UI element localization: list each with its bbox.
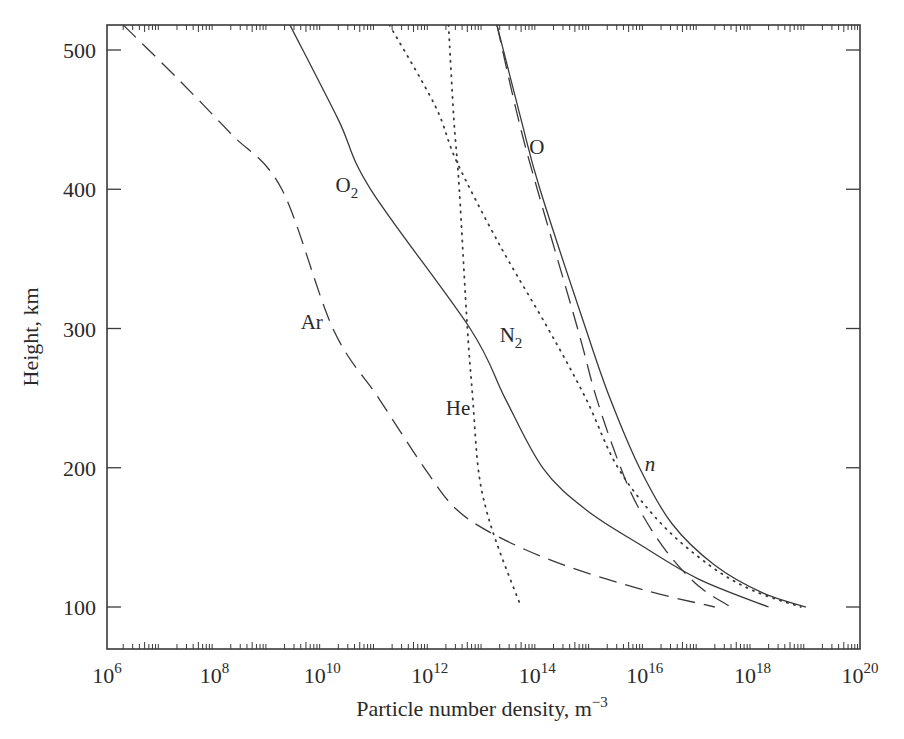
curve-labels: ArO2HeN2On <box>301 135 656 475</box>
curve-n2 <box>389 25 800 607</box>
y-tick-label: 500 <box>63 38 96 63</box>
curves <box>123 25 806 607</box>
y-tick-label: 200 <box>63 456 96 481</box>
x-tick-label: 1014 <box>519 660 557 688</box>
label-he: He <box>446 396 471 420</box>
x-tick-label: 1010 <box>304 660 341 688</box>
plot-border <box>107 25 860 649</box>
x-tick-label: 1012 <box>411 660 448 688</box>
curve-n <box>497 25 806 607</box>
x-tick-label: 1016 <box>626 660 664 688</box>
x-tick-label: 108 <box>200 660 230 688</box>
y-tick-label: 300 <box>63 317 96 342</box>
curve-ar <box>123 25 715 607</box>
label-ar: Ar <box>301 310 323 334</box>
y-tick-label: 100 <box>63 595 96 620</box>
label-n2: N2 <box>500 323 523 351</box>
label-n: n <box>645 452 656 476</box>
x-tick-label: 1018 <box>734 660 771 688</box>
curve-he <box>449 25 522 607</box>
density-chart: 106108101010121014101610181020 100200300… <box>0 0 904 739</box>
y-tick-label: 400 <box>63 177 96 202</box>
x-tick-label: 106 <box>92 660 122 688</box>
y-axis: 100200300400500 <box>63 38 860 620</box>
curve-o2 <box>290 25 769 607</box>
label-o2: O2 <box>336 173 359 201</box>
plot-frame <box>107 25 860 649</box>
label-o: O <box>529 135 544 159</box>
x-tick-label: 1020 <box>842 660 879 688</box>
y-axis-title: Height, km <box>18 288 43 387</box>
x-axis-title: Particle number density, m−3 <box>356 694 608 721</box>
curve-o <box>497 25 731 607</box>
